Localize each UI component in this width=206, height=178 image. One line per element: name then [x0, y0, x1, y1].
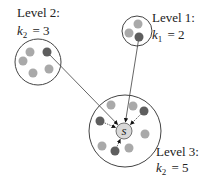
dark-node: [135, 33, 144, 42]
cluster-groups: [15, 16, 161, 167]
light-node: [125, 144, 134, 153]
level-label-k: k2 = 3: [17, 23, 50, 40]
light-node: [134, 20, 143, 29]
group-level-1: [122, 16, 152, 46]
light-node: [129, 102, 138, 111]
light-node: [26, 48, 35, 57]
center-node: s: [116, 123, 132, 139]
light-node: [45, 65, 54, 74]
light-node: [19, 57, 28, 66]
dark-node: [140, 107, 149, 116]
light-node: [125, 29, 134, 38]
level-label-title: Level 3:: [156, 144, 199, 159]
multilevel-cluster-diagram: s Level 2:k2 = 3Level 1:k1 = 2Level 3:k2…: [0, 0, 206, 178]
center-node-label: s: [121, 123, 126, 138]
light-node: [98, 142, 107, 151]
dark-node: [43, 48, 52, 57]
light-node: [29, 69, 38, 78]
dark-node: [96, 117, 105, 126]
level-label-k: k2 = 5: [156, 160, 189, 177]
level-label-k: k1 = 2: [152, 27, 185, 44]
level-label-title: Level 1:: [152, 10, 195, 25]
dark-node: [111, 147, 120, 156]
level-labels: Level 2:k2 = 3Level 1:k1 = 2Level 3:k2 =…: [17, 5, 199, 177]
link-arrow: [47, 52, 118, 125]
level-label-title: Level 2:: [17, 5, 60, 20]
light-node: [141, 130, 150, 139]
light-node: [107, 101, 116, 110]
group-level-2: [15, 39, 61, 85]
